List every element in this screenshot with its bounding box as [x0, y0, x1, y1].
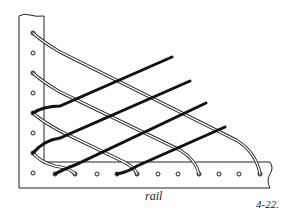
post-hole [31, 131, 35, 135]
figure-number: 4-22. [256, 198, 279, 210]
rail-holes [53, 172, 262, 176]
rail-hole [95, 172, 99, 176]
dark-strands [33, 57, 225, 174]
post-hole [31, 171, 35, 175]
rail-hole [156, 172, 160, 176]
rail-hole [217, 172, 221, 176]
dark-strand [33, 57, 172, 113]
post-hole [31, 91, 35, 95]
rail-label: rail [145, 189, 162, 204]
dark-strand [117, 127, 225, 174]
rail-hole [176, 172, 180, 176]
light-strand [33, 153, 75, 174]
post-hole [31, 51, 35, 55]
rail-hole [237, 172, 241, 176]
weaving-diagram [0, 0, 291, 217]
